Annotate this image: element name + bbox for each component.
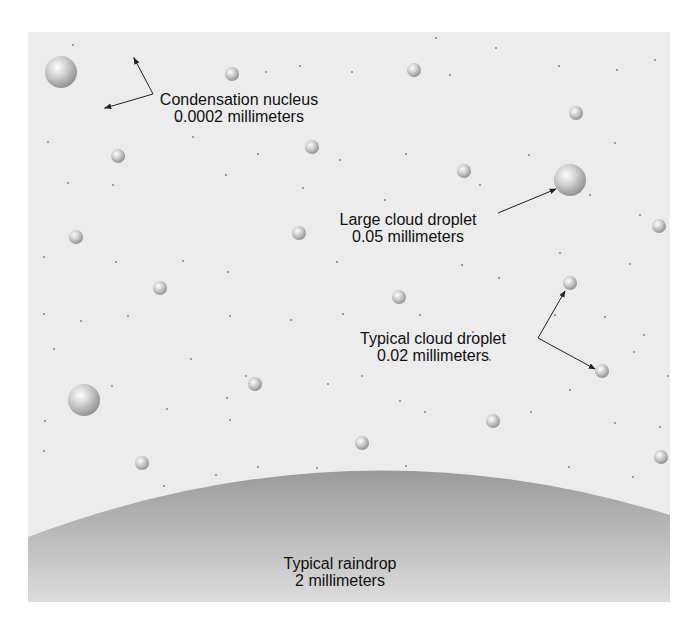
condensation-nucleus-dot xyxy=(47,141,49,143)
cloud-droplet xyxy=(407,63,421,77)
condensation-nucleus-dot xyxy=(558,65,560,67)
condensation-nucleus-dot xyxy=(405,153,407,155)
condensation-nucleus-dot xyxy=(257,153,259,155)
condensation-nucleus-dot xyxy=(265,71,267,73)
condensation-nucleus-dot xyxy=(290,319,292,321)
condensation-nucleus-dot xyxy=(633,351,635,353)
condensation-nucleus-dot xyxy=(44,420,46,422)
condensation-nucleus-dot xyxy=(226,397,228,399)
condensation-nucleus-dot xyxy=(43,450,45,452)
cloud-droplet xyxy=(595,364,609,378)
condensation-nucleus-dot xyxy=(629,263,631,265)
condensation-nucleus-dot xyxy=(227,271,229,273)
diagram-panel: Condensation nucleus 0.0002 millimeters … xyxy=(28,32,670,602)
large-cloud-droplet-label: Large cloud droplet 0.05 millimeters xyxy=(318,211,498,245)
condensation-nucleus-dot xyxy=(127,315,129,317)
condensation-nucleus-dot xyxy=(568,466,570,468)
cloud-droplet xyxy=(355,436,369,450)
condensation-nucleus-dot xyxy=(327,383,329,385)
condensation-nucleus-dot xyxy=(166,408,168,410)
condensation-nucleus-dot xyxy=(163,485,165,487)
condensation-nucleus-dot xyxy=(461,264,463,266)
condensation-nucleus-dot xyxy=(616,69,618,71)
large-cloud-droplet xyxy=(554,164,586,196)
condensation-nucleus-dot xyxy=(424,411,426,413)
condensation-nucleus-dot xyxy=(384,199,386,201)
large-cloud-droplet xyxy=(45,56,77,88)
condensation-nucleus-dot xyxy=(569,389,571,391)
condensation-nucleus-dot xyxy=(361,375,363,377)
typical-cloud-droplet-size: 0.02 millimeters xyxy=(330,347,536,364)
condensation-nucleus-dot xyxy=(614,142,616,144)
condensation-nucleus-dot xyxy=(245,375,247,377)
condensation-nucleus-dot xyxy=(554,314,556,316)
cloud-droplet xyxy=(654,450,668,464)
cloud-droplet xyxy=(69,230,83,244)
cloud-droplet xyxy=(457,164,471,178)
condensation-nucleus-dot xyxy=(405,465,407,467)
condensation-nucleus-dot xyxy=(351,71,353,73)
typical-raindrop-label: Typical raindrop 2 millimeters xyxy=(260,555,420,589)
condensation-nucleus-dot xyxy=(229,419,231,421)
condensation-nucleus-dot xyxy=(498,277,500,279)
cloud-droplet xyxy=(135,456,149,470)
cloud-droplet xyxy=(305,140,319,154)
condensation-nucleus-name: Condensation nucleus xyxy=(154,91,324,108)
condensation-nucleus-dot xyxy=(643,334,645,336)
condensation-nucleus-dot xyxy=(72,44,74,46)
typical-cloud-droplet-name: Typical cloud droplet xyxy=(330,330,536,347)
condensation-nucleus-dot xyxy=(667,375,669,377)
condensation-nucleus-dot xyxy=(43,313,45,315)
cloud-droplet xyxy=(486,414,500,428)
condensation-nucleus-dot xyxy=(225,174,227,176)
cloud-droplet xyxy=(225,67,239,81)
large-cloud-droplet-size: 0.05 millimeters xyxy=(318,228,498,245)
condensation-nucleus-dot xyxy=(495,47,497,49)
condensation-nucleus-dot xyxy=(559,252,561,254)
condensation-nucleus-dot xyxy=(632,476,634,478)
condensation-nucleus-dot xyxy=(316,467,318,469)
condensation-nucleus-dot xyxy=(190,358,192,360)
condensation-nucleus-dot xyxy=(299,65,301,67)
condensation-nucleus-dot xyxy=(43,256,45,258)
typical-cloud-droplet-label: Typical cloud droplet 0.02 millimeters xyxy=(330,330,536,364)
condensation-nucleus-dot xyxy=(192,136,194,138)
condensation-nucleus-dot xyxy=(449,74,451,76)
large-cloud-droplet xyxy=(68,384,100,416)
condensation-nucleus-dot xyxy=(435,37,437,39)
condensation-nucleus-dot xyxy=(528,154,530,156)
condensation-nucleus-dot xyxy=(654,59,656,61)
cloud-droplet xyxy=(248,377,262,391)
condensation-nucleus-dot xyxy=(589,194,591,196)
cloud-droplet xyxy=(652,219,666,233)
condensation-nucleus-dot xyxy=(53,348,55,350)
cloud-droplet xyxy=(153,281,167,295)
condensation-nucleus-dot xyxy=(215,474,217,476)
cloud-droplet xyxy=(292,226,306,240)
typical-raindrop-size: 2 millimeters xyxy=(260,572,420,589)
condensation-nucleus-dot xyxy=(659,426,661,428)
condensation-nucleus-dot xyxy=(229,315,231,317)
condensation-nucleus-dot xyxy=(479,184,481,186)
condensation-nucleus-dot xyxy=(115,261,117,263)
condensation-nucleus-label: Condensation nucleus 0.0002 millimeters xyxy=(154,91,324,125)
condensation-nucleus-dot xyxy=(182,260,184,262)
droplet-scene xyxy=(28,32,670,602)
condensation-nucleus-dot xyxy=(639,214,641,216)
condensation-nucleus-dot xyxy=(67,182,69,184)
condensation-nucleus-dot xyxy=(399,400,401,402)
cloud-droplet xyxy=(111,149,125,163)
condensation-nucleus-dot xyxy=(80,320,82,322)
cloud-droplet xyxy=(569,106,583,120)
condensation-nucleus-dot xyxy=(111,385,113,387)
condensation-nucleus-dot xyxy=(112,184,114,186)
condensation-nucleus-dot xyxy=(339,159,341,161)
condensation-nucleus-dot xyxy=(419,314,421,316)
cloud-droplet xyxy=(563,276,577,290)
condensation-nucleus-dot xyxy=(604,316,606,318)
cloud-droplet xyxy=(392,290,406,304)
condensation-nucleus-dot xyxy=(530,411,532,413)
large-cloud-droplet-name: Large cloud droplet xyxy=(318,211,498,228)
condensation-nucleus-dot xyxy=(614,422,616,424)
condensation-nucleus-dot xyxy=(342,313,344,315)
